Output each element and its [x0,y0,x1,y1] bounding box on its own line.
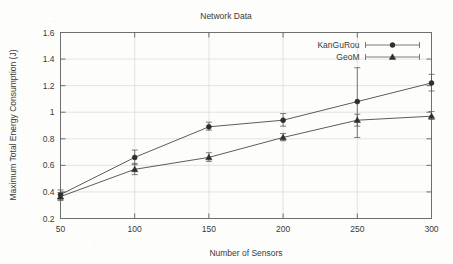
plot-frame [61,33,432,219]
data-point-marker [281,118,286,123]
data-point-marker [429,80,434,85]
series-kangurou [58,68,435,200]
y-tick-label: 0.8 [43,134,55,144]
x-tick-label: 250 [350,224,364,234]
x-tick-label: 50 [56,224,66,234]
y-tick-label: 1.6 [43,28,55,38]
data-point-marker [132,155,137,160]
y-tick-label: 0.2 [43,214,55,224]
x-tick-label: 300 [424,224,438,234]
legend-label-kangurou: KanGuRou [317,40,359,50]
x-tick-label: 100 [128,224,142,234]
data-series-layer [57,68,434,201]
chart-title: Network Data [200,11,252,21]
data-point-marker [428,113,434,119]
data-point-marker [355,99,360,104]
x-tick-label: 200 [276,224,290,234]
legend-label-geom: GeoM [336,52,359,62]
axis-ticks [61,33,432,219]
data-point-marker [206,124,211,129]
gridlines [61,33,432,219]
y-tick-label: 1 [50,107,55,117]
series-geom [57,112,434,201]
x-tick-label: 150 [202,224,216,234]
chart-figure: Network Data Maximum Total Energy Consum… [0,0,453,264]
y-tick-label: 1.2 [43,81,55,91]
y-tick-label: 0.6 [43,160,55,170]
data-point-marker [390,43,395,48]
y-tick-label: 1.4 [43,54,55,64]
y-tick-label: 0.4 [43,187,55,197]
x-axis-title: Number of Sensors [209,248,282,258]
y-axis-title: Maximum Total Energy Consumption (J) [8,49,18,200]
network-data-line-chart: Network Data Maximum Total Energy Consum… [0,0,453,264]
axis-tick-labels: 0.20.40.60.811.21.41.650100150200250300 [43,28,439,234]
chart-legend: KanGuRouGeoM [317,40,419,62]
